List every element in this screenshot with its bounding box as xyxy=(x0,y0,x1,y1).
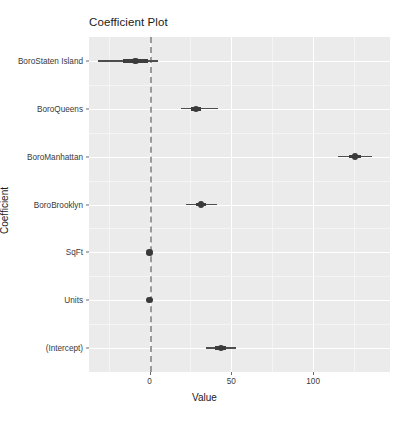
gridline-minor-horizontal xyxy=(89,228,390,229)
gridline-minor-horizontal xyxy=(89,276,390,277)
coefficient-estimate-point[interactable] xyxy=(352,153,358,159)
plot-panel xyxy=(89,37,390,372)
coefficient-estimate-point[interactable] xyxy=(146,297,152,303)
gridline-major-horizontal xyxy=(89,205,390,206)
x-axis-tick-mark xyxy=(231,372,232,375)
x-axis-tick-label: 0 xyxy=(147,377,152,386)
zero-reference-line xyxy=(150,37,152,372)
coefficient-estimate-point[interactable] xyxy=(218,345,224,351)
x-axis-tick-mark xyxy=(150,372,151,375)
y-axis-tick-mark xyxy=(86,156,89,157)
y-axis-tick-label: BoroBrooklyn xyxy=(34,200,83,209)
y-axis-tick-label: BoroStaten Island xyxy=(18,56,83,65)
gridline-minor-horizontal xyxy=(89,181,390,182)
gridline-minor-horizontal xyxy=(89,133,390,134)
coefficient-estimate-point[interactable] xyxy=(198,201,204,207)
y-axis-tick-mark xyxy=(86,108,89,109)
y-axis-tick-label: SqFt xyxy=(66,248,83,257)
y-axis-tick-mark xyxy=(86,300,89,301)
x-axis-tick-label: 50 xyxy=(227,377,236,386)
gridline-major-horizontal xyxy=(89,252,390,253)
gridline-minor-horizontal xyxy=(89,85,390,86)
gridline-major-horizontal xyxy=(89,109,390,110)
y-axis-tick-label: Units xyxy=(64,296,83,305)
y-axis-tick-mark xyxy=(86,252,89,253)
y-axis-tick-mark xyxy=(86,60,89,61)
y-axis-tick-mark xyxy=(86,348,89,349)
y-axis-tick-label: (Intercept) xyxy=(46,344,83,353)
coefficient-estimate-point[interactable] xyxy=(132,58,138,64)
gridline-major-horizontal xyxy=(89,348,390,349)
coefficient-estimate-point[interactable] xyxy=(193,106,199,112)
page-title: Coefficient Plot xyxy=(89,16,168,28)
coefficient-estimate-point[interactable] xyxy=(146,249,152,255)
x-axis-tick-mark xyxy=(313,372,314,375)
y-axis-title: Coefficient xyxy=(0,187,10,234)
y-axis-tick-label: BoroManhattan xyxy=(27,152,83,161)
x-axis-tick-label: 100 xyxy=(306,377,320,386)
y-axis-tick-label: BoroQueens xyxy=(37,104,83,113)
coefficient-plot-figure: Coefficient Plot BoroStaten IslandBoroQu… xyxy=(0,0,409,421)
x-axis-title: Value xyxy=(0,392,409,403)
y-axis-tick-mark xyxy=(86,204,89,205)
gridline-major-horizontal xyxy=(89,300,390,301)
gridline-minor-horizontal xyxy=(89,324,390,325)
